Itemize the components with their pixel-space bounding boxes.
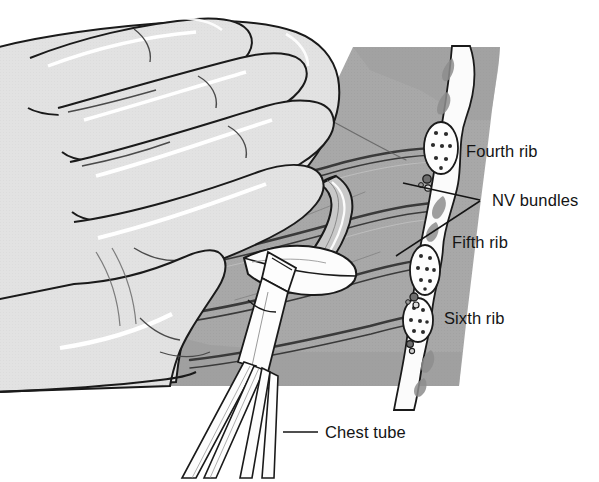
label-nv-bundles: NV bundles bbox=[492, 191, 578, 209]
label-sixth-rib: Sixth rib bbox=[444, 309, 505, 327]
label-chest-tube: Chest tube bbox=[325, 423, 406, 441]
label-fifth-rib: Fifth rib bbox=[452, 233, 508, 251]
fifth-rib-section bbox=[410, 245, 440, 295]
label-fourth-rib: Fourth rib bbox=[466, 142, 538, 160]
chest-tube-illustration: Fourth rib NV bundles Fifth rib Sixth ri… bbox=[0, 0, 599, 482]
fourth-rib-section bbox=[424, 122, 458, 174]
illustration-canvas: Fourth rib NV bundles Fifth rib Sixth ri… bbox=[0, 0, 599, 482]
